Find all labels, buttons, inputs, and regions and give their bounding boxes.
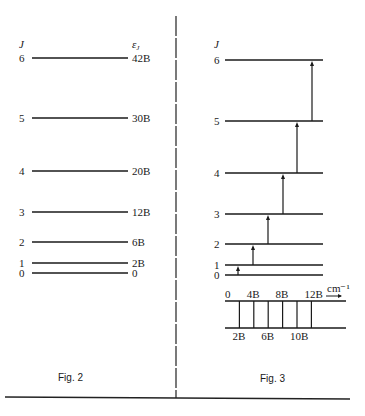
fig3-caption: Fig. 3 (260, 373, 285, 384)
bottom-rule (5, 397, 350, 399)
spectrum-top-label: 0 (225, 288, 231, 300)
arrowhead-icon (251, 245, 255, 250)
fig2-level-j-label: 3 (19, 206, 25, 218)
arrow-right-icon (338, 294, 342, 298)
spectrum-top-label: 8B (276, 288, 289, 300)
arrowhead-icon (295, 122, 299, 127)
fig2-level-energy-label: 42B (132, 52, 150, 64)
spectrum-bottom-label: 10B (290, 330, 308, 342)
fig2-energy-levels: J εJ 642B530B420B312B26B12B00 (19, 38, 150, 279)
fig2-energy-header: εJ (132, 38, 140, 52)
fig2-caption: Fig. 2 (58, 372, 83, 383)
fig3-level-j-label: 5 (214, 115, 220, 127)
fig3-j-header: J (214, 38, 220, 50)
fig3-level-j-label: 4 (214, 167, 220, 179)
arrowhead-icon (236, 266, 240, 271)
fig2-level-j-label: 6 (19, 52, 25, 64)
fig2-level-energy-label: 20B (132, 165, 150, 177)
fig3-level-j-label: 3 (214, 208, 220, 220)
spectrum-top-label: 4B (247, 288, 260, 300)
fig2-level-energy-label: 12B (132, 206, 150, 218)
fig2-level-energy-label: 0 (132, 267, 138, 279)
fig3-level-j-label: 6 (214, 54, 220, 66)
fig2-level-j-label: 4 (19, 165, 25, 177)
arrowhead-icon (281, 174, 285, 179)
fig2-level-energy-label: 6B (132, 236, 145, 248)
arrowhead-icon (266, 215, 270, 220)
fig2-level-j-label: 0 (19, 267, 25, 279)
fig2-level-j-label: 5 (19, 112, 25, 124)
spectrum-bottom-label: 2B (232, 330, 245, 342)
arrowhead-icon (310, 61, 314, 66)
fig2-level-j-label: 2 (19, 236, 25, 248)
fig3-level-j-label: 2 (214, 238, 220, 250)
spectrum-unit-label: cm⁻¹ (327, 282, 350, 294)
spectrum-top-label: 12B (304, 288, 322, 300)
fig2-level-energy-label: 30B (132, 112, 150, 124)
fig2-j-header: J (19, 38, 25, 50)
rotational-energy-diagram: J εJ 642B530B420B312B26B12B00 J 6543210 … (0, 0, 365, 416)
fig3-transitions: J 6543210 (214, 38, 323, 281)
fig3-level-j-label: 0 (214, 269, 220, 281)
fig3-spectrum: 04B8B12B2B6B10Bcm⁻¹ (225, 282, 350, 342)
spectrum-bottom-label: 6B (261, 330, 274, 342)
